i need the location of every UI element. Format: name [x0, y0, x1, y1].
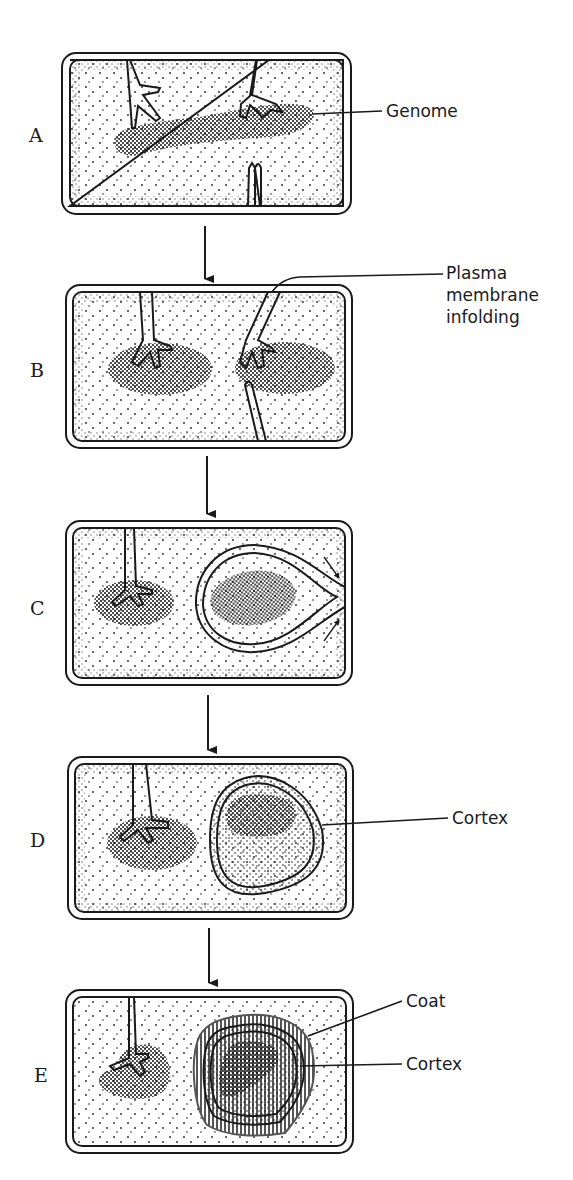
callout-cortex-d: Cortex	[322, 808, 508, 828]
forespore-genome	[226, 794, 295, 836]
cell-e	[66, 990, 353, 1153]
label-cortex-e: Cortex	[406, 1054, 462, 1074]
stage-d: D Cortex	[30, 757, 508, 919]
label-genome: Genome	[386, 101, 458, 121]
cell-a	[62, 53, 351, 214]
cell-c	[66, 521, 352, 685]
stage-b: B Plasma membrane infolding	[30, 263, 539, 448]
stage-label-e: E	[34, 1064, 48, 1086]
stage-label-b: B	[30, 359, 44, 381]
stage-c: C	[30, 521, 352, 685]
label-coat: Coat	[406, 991, 446, 1011]
stage-label-d: D	[30, 829, 45, 851]
mother-cell-genome	[94, 580, 174, 626]
label-membrane: membrane	[446, 285, 539, 305]
stage-e: E Coat Cortex	[34, 990, 462, 1153]
stage-label-c: C	[30, 597, 45, 619]
endospore-formation-diagram: A Genome B	[0, 0, 573, 1180]
label-plasma: Plasma	[446, 263, 507, 283]
cell-d	[68, 757, 353, 919]
stage-label-a: A	[28, 124, 43, 146]
genome-copy-right	[235, 342, 335, 394]
label-cortex-d: Cortex	[452, 808, 508, 828]
label-infolding: infolding	[446, 307, 520, 327]
stage-a: A Genome	[28, 53, 458, 214]
mother-cell-genome	[107, 816, 197, 870]
cell-b	[66, 285, 352, 448]
